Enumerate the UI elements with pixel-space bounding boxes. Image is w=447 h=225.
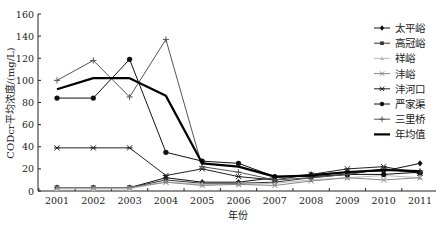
x-tick-label: 2007 [263,195,287,206]
y-axis-label: CODcr平均浓度/(mg/L) [4,47,16,158]
y-tick-label: 0 [28,186,34,197]
legend-label: 高冠峪 [395,37,426,49]
circle-marker [54,95,59,100]
y-tick-label: 40 [22,141,34,152]
legend-label: 沣河口 [395,83,425,95]
legend-item: 祥峪 [374,52,416,64]
x-tick-label: 2001 [45,195,69,206]
circle-marker [236,161,241,166]
legend-label: 严家渠 [395,98,426,110]
legend-label: 三里桥 [395,113,426,125]
diamond-marker [417,160,422,166]
x-axis-label: 年份 [228,209,248,221]
circle-marker [380,102,384,106]
legend-item: 年均值 [374,128,426,140]
line-chart: 0204060801001201401602001200220032004200… [0,0,447,225]
legend-label: 太平峪 [395,22,426,34]
y-tick-label: 100 [16,75,34,86]
circle-marker [91,95,96,100]
legend-item: 严家渠 [374,98,426,110]
legend-label: 沣峪 [395,68,416,80]
y-tick-label: 140 [16,31,34,42]
circle-marker [127,57,132,62]
x-tick-label: 2004 [154,195,178,206]
x-tick-label: 2011 [408,195,432,206]
diamond-marker [380,25,384,31]
chart-canvas: 0204060801001201401602001200220032004200… [0,0,447,225]
y-tick-label: 160 [16,9,34,20]
x-tick-label: 2005 [190,195,214,206]
series-2 [54,173,422,191]
circle-marker [163,150,168,155]
series-group [54,36,423,191]
x-tick-label: 2008 [299,195,323,206]
y-tick-label: 120 [16,53,34,64]
legend-item: 沣河口 [374,83,425,95]
legend: 太平峪高冠峪祥峪沣峪沣河口严家渠三里桥年均值 [374,22,426,140]
legend-item: 三里桥 [374,113,426,125]
circle-marker [381,172,386,177]
y-tick-label: 80 [22,97,34,108]
series-5 [54,57,422,179]
legend-label: 祥峪 [395,52,416,64]
x-tick-label: 2003 [118,195,142,206]
series-line [57,59,420,176]
legend-label: 年均值 [395,128,426,140]
x-tick-label: 2009 [335,195,359,206]
legend-item: 高冠峪 [374,37,426,49]
x-tick-label: 2010 [372,195,396,206]
series-line [57,39,420,179]
y-tick-label: 60 [22,119,34,130]
square-marker [380,41,384,45]
y-tick-label: 20 [22,163,34,174]
x-tick-label: 2002 [81,195,105,206]
x-tick-label: 2006 [226,195,250,206]
legend-item: 沣峪 [374,68,416,80]
legend-item: 太平峪 [374,22,426,34]
